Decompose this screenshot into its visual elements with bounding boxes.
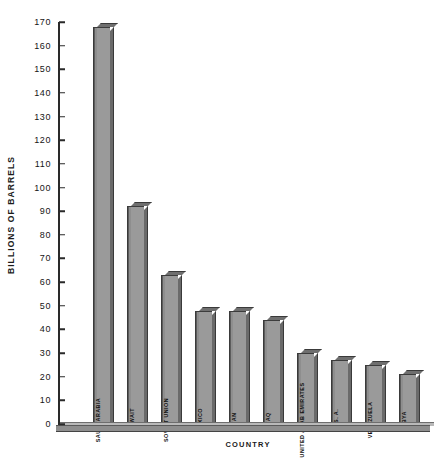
y-tick-mark bbox=[59, 21, 65, 23]
y-axis-tick-labels: 0102030405060708090100110120130140150160… bbox=[22, 0, 54, 430]
bar: IRAN bbox=[229, 311, 246, 425]
bar: UNITED ARAB EMIRATES bbox=[297, 353, 314, 424]
bar-front-face bbox=[365, 365, 382, 424]
bar-front-face bbox=[263, 320, 280, 424]
y-tick-label: 120 bbox=[34, 135, 51, 145]
y-tick-label: 150 bbox=[34, 64, 51, 74]
y-tick-label: 170 bbox=[34, 17, 51, 27]
y-tick-label: 160 bbox=[34, 41, 51, 51]
bar-side-face bbox=[178, 275, 182, 428]
y-tick-label: 10 bbox=[40, 395, 51, 405]
y-tick-mark bbox=[59, 234, 65, 236]
baseline-front-face bbox=[56, 425, 430, 432]
bar-side-face bbox=[348, 360, 352, 428]
bar: SOVIET UNION bbox=[161, 275, 178, 424]
bar-front-face bbox=[195, 311, 212, 425]
bar: VENEZUELA bbox=[365, 365, 382, 424]
y-tick-mark bbox=[59, 376, 65, 378]
y-tick-label: 50 bbox=[40, 301, 51, 311]
y-tick-mark bbox=[59, 352, 65, 354]
y-tick-mark bbox=[59, 305, 65, 307]
bar-front-face bbox=[93, 27, 110, 424]
y-tick-label: 40 bbox=[40, 324, 51, 334]
bar-front-face bbox=[127, 206, 144, 424]
bar: KUWAIT bbox=[127, 206, 144, 424]
y-tick-mark bbox=[59, 45, 65, 47]
bar-side-face bbox=[280, 320, 284, 428]
y-tick-mark bbox=[59, 116, 65, 118]
y-tick-label: 80 bbox=[40, 230, 51, 240]
y-tick-mark bbox=[59, 69, 65, 71]
bar-side-face bbox=[144, 206, 148, 428]
bar-front-face bbox=[161, 275, 178, 424]
x-axis-baseline bbox=[56, 422, 434, 430]
bar-front-face bbox=[331, 360, 348, 424]
bar-side-face bbox=[416, 374, 420, 428]
bar-side-face bbox=[314, 353, 318, 428]
y-tick-mark bbox=[59, 281, 65, 283]
y-tick-label: 0 bbox=[45, 419, 51, 429]
y-tick-mark bbox=[59, 400, 65, 402]
y-axis-title: BILLIONS OF BARRELS bbox=[0, 0, 22, 430]
y-tick-mark bbox=[59, 329, 65, 331]
y-tick-mark bbox=[59, 139, 65, 141]
y-tick-mark bbox=[59, 163, 65, 165]
bar-front-face bbox=[229, 311, 246, 425]
y-axis-line bbox=[58, 22, 60, 425]
y-tick-label: 100 bbox=[34, 183, 51, 193]
y-tick-label: 110 bbox=[35, 159, 51, 169]
y-axis-title-text: BILLIONS OF BARRELS bbox=[6, 156, 16, 274]
bar-side-face bbox=[212, 311, 216, 429]
bar-side-face bbox=[110, 27, 114, 428]
bar: SAUDI ARABIA bbox=[93, 27, 110, 424]
y-tick-mark bbox=[59, 92, 65, 94]
bar: IRAQ bbox=[263, 320, 280, 424]
y-tick-label: 30 bbox=[40, 348, 51, 358]
y-tick-label: 90 bbox=[40, 206, 51, 216]
y-tick-mark bbox=[59, 423, 65, 425]
bar-front-face bbox=[399, 374, 416, 424]
y-tick-label: 130 bbox=[34, 112, 51, 122]
plot-area: SAUDI ARABIAKUWAITSOVIET UNIONMEXICOIRAN… bbox=[58, 0, 438, 430]
bar-side-face bbox=[246, 311, 250, 429]
x-axis-title: COUNTRY bbox=[58, 440, 438, 449]
y-tick-mark bbox=[59, 210, 65, 212]
y-tick-label: 140 bbox=[34, 88, 51, 98]
bar-front-face bbox=[297, 353, 314, 424]
bar: U. S. A. bbox=[331, 360, 348, 424]
y-tick-label: 20 bbox=[40, 372, 51, 382]
bar-chart: BILLIONS OF BARRELS 01020304050607080901… bbox=[0, 0, 447, 464]
y-tick-label: 60 bbox=[40, 277, 51, 287]
y-tick-label: 70 bbox=[40, 253, 51, 263]
bar: LIBYA bbox=[399, 374, 416, 424]
bar-side-face bbox=[382, 365, 386, 428]
y-tick-mark bbox=[59, 187, 65, 189]
bar: MEXICO bbox=[195, 311, 212, 425]
y-tick-mark bbox=[59, 258, 65, 260]
